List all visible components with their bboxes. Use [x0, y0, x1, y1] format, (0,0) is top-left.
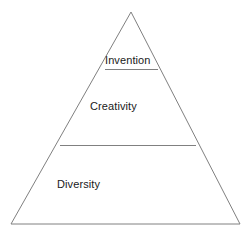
pyramid-tier-label-diversity: Diversity	[57, 178, 100, 190]
pyramid-diagram: Invention Creativity Diversity	[0, 0, 251, 239]
pyramid-tier-label-creativity: Creativity	[90, 100, 137, 112]
pyramid-outline	[11, 12, 240, 224]
pyramid-shape	[0, 0, 251, 239]
pyramid-tier-label-invention: Invention	[105, 54, 151, 66]
